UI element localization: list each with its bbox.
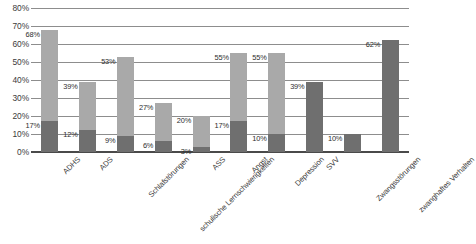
- bar-dark[interactable]: [268, 134, 285, 152]
- bar-value-label: 39%: [290, 81, 306, 90]
- y-axis-tick-label: 80%: [0, 3, 29, 13]
- bar-dark[interactable]: [117, 136, 134, 152]
- bar-group[interactable]: 62%: [382, 8, 399, 152]
- x-axis-tick-label: ADHS: [61, 155, 82, 176]
- x-axis-tick-label: Zwangsstörungen: [375, 155, 423, 203]
- bar-group[interactable]: 55%17%: [230, 8, 247, 152]
- y-axis-tick-label: 0%: [0, 147, 29, 157]
- bar-dark[interactable]: [193, 147, 210, 152]
- bar-dark[interactable]: [155, 141, 172, 152]
- x-axis-tick-label: ADS: [97, 155, 114, 172]
- bar-group[interactable]: 55%10%: [268, 8, 285, 152]
- bar-group[interactable]: 53%9%: [117, 8, 134, 152]
- y-axis-tick-label: 40%: [0, 75, 29, 85]
- bar-value-label: 55%: [252, 53, 268, 62]
- bar-group[interactable]: 39%12%: [79, 8, 96, 152]
- x-axis-tick-label: SVV: [324, 155, 341, 172]
- bar-value-label: 9%: [105, 135, 117, 144]
- bar-dark[interactable]: [41, 121, 58, 152]
- y-axis-tick-label: 60%: [0, 39, 29, 49]
- bar-value-label: 53%: [101, 56, 117, 65]
- bar-group[interactable]: 39%: [306, 8, 323, 152]
- bar-value-label: 39%: [63, 81, 79, 90]
- bar-value-label: 10%: [252, 134, 268, 143]
- bar-value-label: 6%: [143, 141, 155, 150]
- bar-dark[interactable]: [79, 130, 96, 152]
- bar-value-label: 68%: [26, 29, 42, 38]
- bar-value-label: 17%: [215, 121, 231, 130]
- y-axis-tick-label: 30%: [0, 93, 29, 103]
- bar-dark[interactable]: [230, 121, 247, 152]
- bar-value-label: 62%: [366, 40, 382, 49]
- x-axis-tick-label: schulische Lernschwierigkeiten: [198, 155, 276, 233]
- bar-group[interactable]: 10%: [344, 8, 361, 152]
- plot-area: 68%17%39%12%53%9%27%6%20%3%55%17%55%10%3…: [31, 8, 409, 152]
- x-axis-category-labels: ADHSADSSchlafstörungenschulische Lernsch…: [31, 155, 409, 243]
- bar-dark[interactable]: [344, 134, 361, 152]
- bar-group[interactable]: 20%3%: [193, 8, 210, 152]
- bar-value-label: 3%: [181, 146, 193, 155]
- bar-group[interactable]: 68%17%: [41, 8, 58, 152]
- x-axis-tick-label: zwanghaftes Verhalten: [417, 155, 476, 214]
- bar-value-label: 17%: [26, 121, 42, 130]
- x-axis-tick-label: Schlafstörungen: [146, 155, 190, 199]
- y-axis-tick-label: 20%: [0, 111, 29, 121]
- x-axis-tick-label: ASS: [210, 155, 227, 172]
- y-axis-tick-label: 50%: [0, 57, 29, 67]
- bar-value-label: 12%: [63, 130, 79, 139]
- bar-group[interactable]: 27%6%: [155, 8, 172, 152]
- bar-dark[interactable]: [382, 40, 399, 152]
- bar-value-label: 55%: [215, 53, 231, 62]
- bar-value-label: 20%: [177, 116, 193, 125]
- bar-dark[interactable]: [306, 82, 323, 152]
- y-axis-tick-label: 10%: [0, 129, 29, 139]
- bar-value-label: 27%: [139, 103, 155, 112]
- x-axis-tick-label: Depression: [293, 155, 326, 188]
- bar-value-label: 10%: [328, 134, 344, 143]
